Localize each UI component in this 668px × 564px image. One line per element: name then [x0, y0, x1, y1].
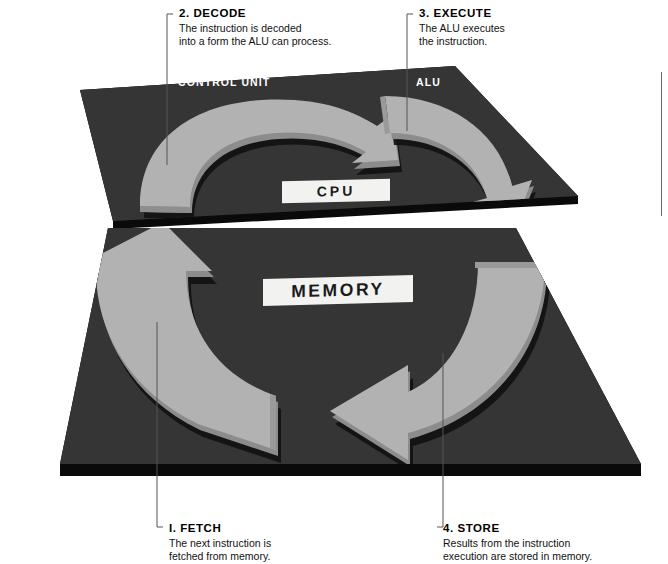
callout-execute-body-line2: the instruction.	[419, 35, 487, 47]
control-unit-label: CONTROL UNIT	[178, 76, 270, 88]
callout-decode-number: 2.	[179, 7, 190, 19]
callout-store-body-line1: Results from the instruction	[443, 537, 570, 549]
callout-store-body-line2: execution are stored in memory.	[443, 550, 592, 562]
callout-decode: 2. DECODE The instruction is decoded int…	[168, 7, 383, 48]
callout-store-body: Results from the instruction execution a…	[432, 537, 647, 563]
callout-execute-number: 3.	[419, 7, 430, 19]
callout-store-label: STORE	[457, 522, 499, 534]
callout-decode-label: DECODE	[193, 7, 246, 19]
callout-store-number: 4.	[443, 522, 454, 534]
alu-label: ALU	[416, 76, 441, 88]
callout-execute-label: EXECUTE	[433, 7, 491, 19]
callout-fetch-number: I.	[169, 522, 177, 534]
callout-decode-title: 2. DECODE	[168, 7, 383, 20]
callout-decode-body: The instruction is decoded into a form t…	[168, 22, 383, 48]
callout-execute-title: 3. EXECUTE	[408, 7, 623, 20]
callout-fetch-title: I. FETCH	[158, 522, 373, 535]
page-edge-rule	[661, 72, 662, 216]
callout-fetch: I. FETCH The next instruction is fetched…	[158, 522, 373, 563]
callout-decode-body-line2: into a form the ALU can process.	[179, 35, 331, 47]
memory-plate: MEMORY	[263, 275, 413, 306]
callout-store: 4. STORE Results from the instruction ex…	[432, 522, 647, 563]
callout-execute-body-line1: The ALU executes	[419, 22, 505, 34]
callout-store-title: 4. STORE	[432, 522, 647, 535]
callout-execute-body: The ALU executes the instruction.	[408, 22, 623, 48]
callout-execute: 3. EXECUTE The ALU executes the instruct…	[408, 7, 623, 48]
cpu-plate: CPU	[282, 179, 390, 203]
callout-fetch-body-line2: fetched from memory.	[169, 550, 270, 562]
callout-decode-body-line1: The instruction is decoded	[179, 22, 302, 34]
callout-fetch-label: FETCH	[180, 522, 221, 534]
callout-fetch-body: The next instruction is fetched from mem…	[158, 537, 373, 563]
callout-fetch-body-line1: The next instruction is	[169, 537, 271, 549]
diagram-canvas: CONTROL UNIT ALU CPU MEMORY 2. DECODE Th…	[0, 0, 668, 564]
